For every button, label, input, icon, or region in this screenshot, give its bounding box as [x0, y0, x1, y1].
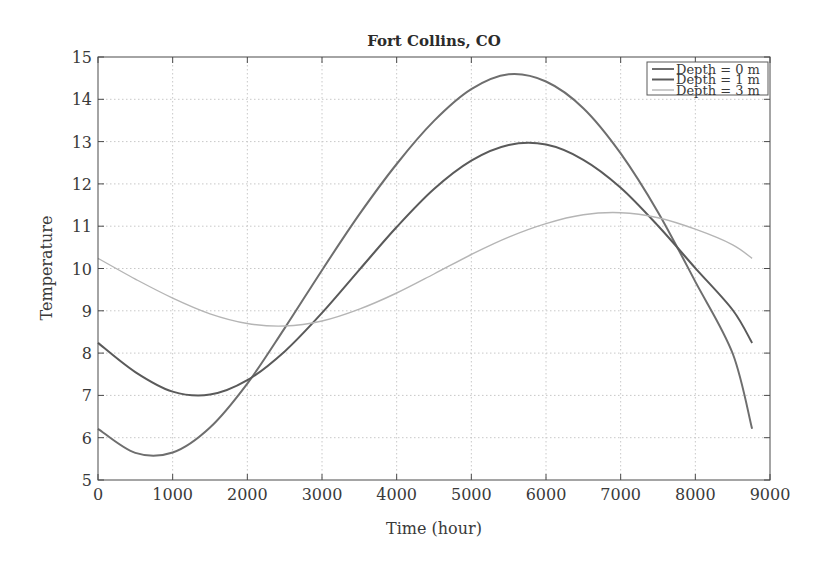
x-tick-label: 9000	[750, 485, 791, 504]
series-line-2	[98, 213, 752, 327]
series-line-0	[98, 74, 752, 456]
legend-label: Depth = 3 m	[676, 83, 760, 98]
series-line-1	[98, 143, 752, 396]
y-tick-label: 13	[72, 133, 92, 152]
x-axis-label: Time (hour)	[386, 519, 482, 538]
x-tick-label: 3000	[302, 485, 343, 504]
y-tick-label: 14	[72, 90, 92, 109]
x-tick-label: 6000	[526, 485, 567, 504]
x-tick-label: 5000	[451, 485, 492, 504]
y-tick-label: 12	[72, 175, 92, 194]
chart-title: Fort Collins, CO	[367, 32, 501, 50]
y-tick-label: 11	[72, 217, 92, 236]
y-tick-label: 15	[72, 48, 92, 67]
y-tick-label: 8	[82, 344, 92, 363]
y-axis-label: Temperature	[37, 216, 56, 321]
y-tick-label: 6	[82, 429, 92, 448]
x-tick-label: 7000	[600, 485, 641, 504]
y-tick-label: 10	[72, 260, 92, 279]
x-tick-label: 1000	[152, 485, 193, 504]
y-tick-label: 5	[82, 471, 92, 490]
chart-canvas: 0100020003000400050006000700080009000567…	[0, 0, 827, 566]
y-tick-label: 7	[82, 386, 92, 405]
x-tick-label: 0	[93, 485, 103, 504]
x-tick-label: 2000	[227, 485, 268, 504]
x-tick-label: 8000	[675, 485, 716, 504]
data-curves	[98, 74, 752, 456]
y-tick-label: 9	[82, 302, 92, 321]
legend: Depth = 0 mDepth = 1 mDepth = 3 m	[647, 62, 768, 98]
x-tick-label: 4000	[376, 485, 417, 504]
